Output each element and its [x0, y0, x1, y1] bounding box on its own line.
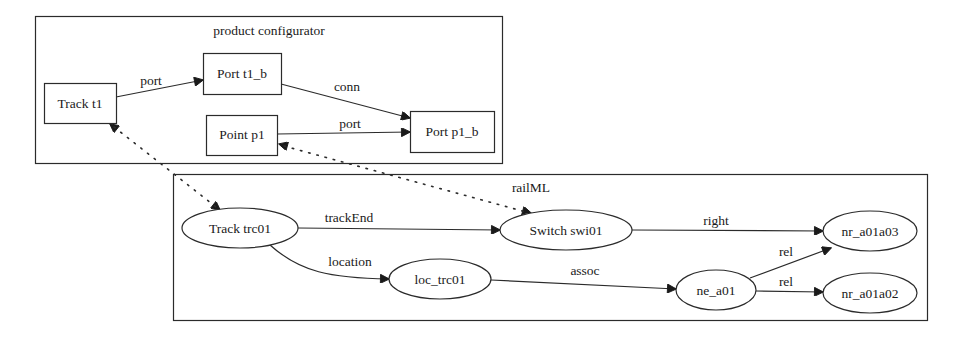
node-point-p1[interactable]: Point p1: [207, 116, 278, 156]
mapping-edge-track-t1-track-trc01: [110, 124, 220, 210]
node-point-p1-label: Point p1: [219, 127, 264, 142]
node-switch-swi01[interactable]: Switch swi01: [500, 210, 632, 250]
edge-ne-a01-nr-a01a02: rel: [756, 274, 823, 292]
edge-line: [491, 280, 676, 289]
edge-label: port: [140, 73, 162, 88]
node-nr-a01a03[interactable]: nr_a01a03: [823, 211, 917, 251]
node-nr-a01a02-label: nr_a01a02: [842, 286, 899, 301]
node-switch-swi01-label: Switch swi01: [529, 223, 602, 238]
edge-line: [277, 132, 410, 134]
edge-label: rel: [779, 274, 793, 289]
cluster-railml-label: railML: [512, 180, 550, 195]
edge-track-trc01-switch-swi01: trackEnd: [298, 210, 500, 230]
edge-track-trc01-loc-trc01: location: [270, 245, 389, 279]
edge-track-t1-port-t1-b: port: [116, 73, 203, 97]
node-track-trc01[interactable]: Track trc01: [182, 208, 298, 248]
edge-label: location: [328, 254, 372, 269]
node-port-p1-b-label: Port p1_b: [426, 124, 479, 139]
edge-ne-a01-nr-a01a03: rel: [750, 244, 831, 278]
node-port-t1-b[interactable]: Port t1_b: [204, 54, 282, 95]
mapping-edge-point-p1-switch-swi01: [279, 144, 531, 213]
edge-label: conn: [334, 79, 360, 94]
edge-label: trackEnd: [325, 210, 374, 225]
edge-label: assoc: [570, 263, 599, 278]
edge-label: port: [339, 116, 361, 131]
node-track-trc01-label: Track trc01: [209, 221, 271, 236]
mapping-edge-arrows: [110, 124, 220, 210]
node-port-p1-b[interactable]: Port p1_b: [411, 112, 495, 153]
edge-loc-trc01-ne-a01: assoc: [491, 263, 676, 289]
node-track-t1[interactable]: Track t1: [45, 84, 117, 124]
node-ne-a01-label: ne_a01: [697, 283, 736, 298]
edge-switch-swi01-nr-a01a03: right: [632, 213, 823, 231]
edge-label: rel: [779, 244, 793, 259]
node-port-t1-b-label: Port t1_b: [217, 66, 267, 81]
node-nr-a01a03-label: nr_a01a03: [842, 224, 899, 239]
edge-line: [298, 228, 500, 230]
edge-label: right: [703, 213, 729, 228]
edge-line: [632, 230, 823, 231]
node-ne-a01[interactable]: ne_a01: [676, 270, 756, 310]
edge-point-p1-port-p1-b: port: [277, 116, 410, 134]
mapping-diagram: product configurator railML port conn po…: [0, 0, 962, 340]
node-track-t1-label: Track t1: [58, 96, 103, 111]
node-loc-trc01-label: loc_trc01: [415, 272, 466, 287]
node-nr-a01a02[interactable]: nr_a01a02: [823, 273, 917, 313]
node-loc-trc01[interactable]: loc_trc01: [389, 259, 491, 299]
cluster-product-configurator-label: product configurator: [213, 23, 325, 38]
edge-line: [756, 291, 823, 292]
edge-port-t1-b-port-p1-b: conn: [281, 79, 410, 118]
